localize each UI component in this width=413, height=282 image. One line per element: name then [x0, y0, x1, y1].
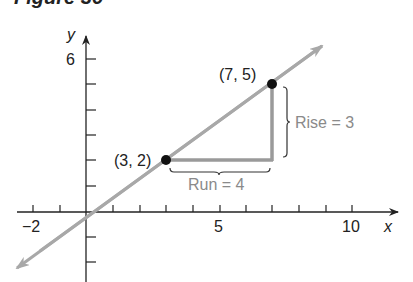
y-axis-ticks — [86, 59, 96, 262]
y-axis-label: y — [66, 26, 76, 43]
x-axis-label: x — [383, 218, 393, 235]
y-axis: 6 y — [66, 26, 96, 282]
y-tick-label-6: 6 — [66, 51, 75, 68]
run-label: Run = 4 — [188, 176, 245, 193]
rise-label: Rise = 3 — [295, 114, 354, 131]
x-tick-label-5: 5 — [214, 218, 223, 235]
x-tick-label-neg2: −2 — [22, 218, 40, 235]
rise-bracket — [283, 87, 290, 157]
point-3-2 — [161, 155, 171, 165]
run-bracket — [170, 168, 270, 175]
x-axis: −2 5 10 x — [17, 205, 398, 235]
point-7-5 — [267, 79, 277, 89]
point-label-3-2: (3, 2) — [114, 152, 151, 169]
point-label-7-5: (7, 5) — [219, 66, 256, 83]
x-tick-label-10: 10 — [342, 218, 360, 235]
coordinate-plane: −2 5 10 x 6 y Rise = 3 Run = 4 (3, 2 — [0, 0, 413, 282]
x-axis-ticks — [33, 205, 352, 212]
